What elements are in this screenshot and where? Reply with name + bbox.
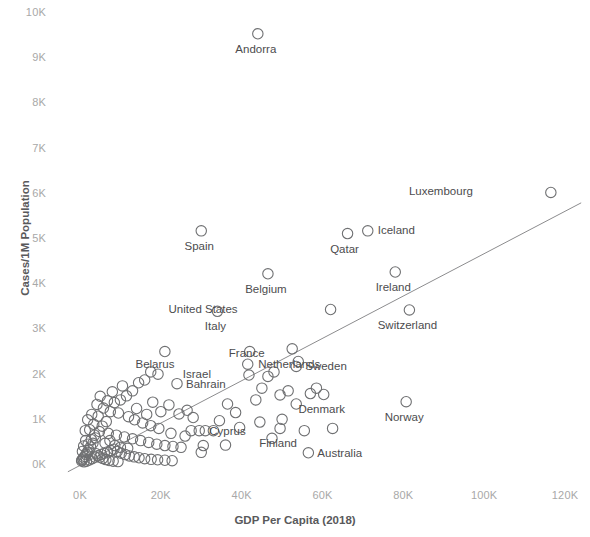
data-point[interactable] <box>141 409 151 419</box>
point-label-qatar: Qatar <box>330 243 359 255</box>
scatter-chart: 0K1K2K3K4K5K6K7K8K9K10K 0K20K40K60K80K10… <box>0 0 590 537</box>
data-point-luxembourg[interactable] <box>546 187 556 197</box>
data-point[interactable] <box>188 412 198 422</box>
y-axis-title: Cases/1M Population <box>19 153 31 323</box>
point-label-united-states: United States <box>169 303 238 315</box>
trendline-layer <box>68 203 581 472</box>
x-axis-tick: 60K <box>300 489 346 501</box>
plot-area <box>0 0 590 537</box>
data-point[interactable] <box>305 388 315 398</box>
data-point-australia[interactable] <box>303 448 313 458</box>
data-point[interactable] <box>327 423 337 433</box>
data-point-qatar[interactable] <box>342 228 352 238</box>
point-label-spain: Spain <box>185 240 214 252</box>
data-point[interactable] <box>275 390 285 400</box>
x-axis-title: GDP Per Capita (2018) <box>0 514 590 526</box>
data-point[interactable] <box>257 383 267 393</box>
data-point-norway[interactable] <box>401 397 411 407</box>
data-point[interactable] <box>139 375 149 385</box>
x-axis-tick: 20K <box>138 489 184 501</box>
data-points-layer <box>76 29 556 467</box>
data-point-cyprus[interactable] <box>194 425 204 435</box>
point-label-sweden: Sweden <box>305 360 347 372</box>
data-point-ireland[interactable] <box>390 267 400 277</box>
data-point[interactable] <box>131 403 141 413</box>
data-point-andorra[interactable] <box>253 29 263 39</box>
point-label-italy: Italy <box>205 320 226 332</box>
data-point[interactable] <box>196 447 206 457</box>
data-point[interactable] <box>113 408 123 418</box>
data-point-finland[interactable] <box>275 423 285 433</box>
point-label-france: France <box>229 347 265 359</box>
data-point[interactable] <box>164 400 174 410</box>
y-axis-tick: 10K <box>12 6 46 18</box>
data-point[interactable] <box>220 440 230 450</box>
data-point[interactable] <box>222 399 232 409</box>
point-label-norway: Norway <box>385 411 424 423</box>
data-point-bahrain[interactable] <box>172 378 182 388</box>
point-label-ireland: Ireland <box>376 281 411 293</box>
point-label-belgium: Belgium <box>245 283 287 295</box>
data-point[interactable] <box>148 397 158 407</box>
point-label-australia: Australia <box>317 447 362 459</box>
data-point[interactable] <box>299 425 309 435</box>
y-axis-tick: 9K <box>12 51 46 63</box>
point-label-belarus: Belarus <box>136 358 175 370</box>
data-point[interactable] <box>176 442 186 452</box>
data-point-united-states[interactable] <box>325 304 335 314</box>
data-point[interactable] <box>167 456 177 466</box>
data-point[interactable] <box>166 428 176 438</box>
data-point[interactable] <box>198 440 208 450</box>
data-point-belarus[interactable] <box>153 369 163 379</box>
y-axis-tick: 1K <box>12 413 46 425</box>
data-point[interactable] <box>255 417 265 427</box>
y-axis-tick: 3K <box>12 322 46 334</box>
data-point[interactable] <box>117 381 127 391</box>
data-point-netherlands[interactable] <box>287 344 297 354</box>
data-point[interactable] <box>123 411 133 421</box>
x-axis-tick: 80K <box>380 489 426 501</box>
point-label-switzerland: Switzerland <box>378 319 437 331</box>
data-point[interactable] <box>251 395 261 405</box>
data-point[interactable] <box>180 431 190 441</box>
x-axis-tick: 120K <box>542 489 588 501</box>
y-axis-tick: 8K <box>12 96 46 108</box>
data-point[interactable] <box>311 383 321 393</box>
point-label-cyprus: Cyprus <box>209 425 245 437</box>
data-point[interactable] <box>107 387 117 397</box>
trendline <box>68 203 581 472</box>
data-point-spain[interactable] <box>196 226 206 236</box>
y-axis-tick: 7K <box>12 142 46 154</box>
point-label-andorra: Andorra <box>235 43 276 55</box>
data-point[interactable] <box>230 407 240 417</box>
point-label-iceland: Iceland <box>378 224 415 236</box>
point-label-finland: Finland <box>259 437 297 449</box>
data-point[interactable] <box>160 346 170 356</box>
data-point-belgium[interactable] <box>263 269 273 279</box>
data-point-switzerland[interactable] <box>404 305 414 315</box>
data-point-france[interactable] <box>243 359 253 369</box>
point-label-luxembourg: Luxembourg <box>409 185 473 197</box>
data-point[interactable] <box>283 386 293 396</box>
y-axis-tick: 0K <box>12 458 46 470</box>
y-axis-tick: 2K <box>12 368 46 380</box>
x-axis-tick: 0K <box>57 489 103 501</box>
x-axis-tick: 100K <box>461 489 507 501</box>
point-label-denmark: Denmark <box>298 403 345 415</box>
data-point-denmark[interactable] <box>319 389 329 399</box>
x-axis-tick: 40K <box>219 489 265 501</box>
data-point-iceland[interactable] <box>363 226 373 236</box>
point-label-bahrain: Bahrain <box>186 378 226 390</box>
